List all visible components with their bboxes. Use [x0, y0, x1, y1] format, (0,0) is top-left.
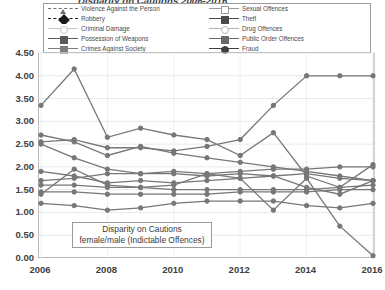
data-point — [238, 137, 242, 141]
data-point — [105, 181, 109, 185]
data-point — [238, 176, 242, 180]
data-point — [338, 224, 342, 228]
y-tick-1.50: 1.50 — [0, 184, 34, 195]
data-point — [338, 74, 342, 78]
legend-swatch-diamond-icon — [48, 15, 78, 23]
legend-item-fraud[interactable]: Fraud — [209, 44, 366, 54]
data-point — [205, 174, 209, 178]
data-point — [304, 203, 308, 207]
data-point — [205, 187, 209, 191]
x-tick-2012: 2012 — [219, 264, 259, 275]
y-tick-3.50: 3.50 — [0, 93, 34, 104]
legend-item-drug-offences[interactable]: Drug Offences — [209, 24, 366, 34]
data-point — [105, 167, 109, 171]
data-point — [338, 176, 342, 180]
y-tick-0.50: 0.50 — [0, 229, 34, 240]
data-point — [205, 144, 209, 148]
legend-item-robbery[interactable]: Robbery — [48, 14, 205, 24]
data-point — [304, 176, 308, 180]
y-tick-0.00: 0.00 — [0, 252, 34, 263]
data-point — [271, 174, 275, 178]
data-point — [271, 208, 275, 212]
data-point — [105, 185, 109, 189]
data-point — [238, 190, 242, 194]
y-tick-2.50: 2.50 — [0, 138, 34, 149]
legend-item-crimes-against-society[interactable]: Crimes Against Society — [48, 44, 205, 54]
legend-label: Sexual Offences — [242, 4, 288, 14]
data-point — [105, 192, 109, 196]
legend-item-theft[interactable]: Theft — [209, 14, 366, 24]
data-point — [371, 254, 375, 258]
y-tick-4.00: 4.00 — [0, 70, 34, 81]
legend-swatch-circle-open-icon — [48, 25, 78, 33]
data-point — [271, 167, 275, 171]
data-point — [304, 190, 308, 194]
data-point — [338, 165, 342, 169]
data-point — [172, 187, 176, 191]
x-tick-2006: 2006 — [20, 264, 60, 275]
data-point — [39, 178, 43, 182]
data-point — [338, 192, 342, 196]
data-point — [238, 199, 242, 203]
data-point — [138, 144, 142, 148]
data-point — [39, 133, 43, 137]
legend-label: Fraud — [242, 44, 258, 54]
chart-annotation: Disparity on Cautions female/male (Indic… — [72, 222, 212, 248]
legend-swatch-square-icon — [48, 35, 78, 43]
data-point — [72, 156, 76, 160]
data-point — [371, 187, 375, 191]
legend-label: Drug Offences — [242, 24, 282, 34]
legend-swatch-circle-open-icon — [209, 25, 239, 33]
data-point — [371, 165, 375, 169]
chart-container: Disparity on Cautions 2006-2016 Violence… — [0, 0, 385, 290]
data-point — [172, 201, 176, 205]
data-point — [138, 126, 142, 130]
data-point — [338, 206, 342, 210]
data-point — [271, 199, 275, 203]
series-line-sexual-offences — [41, 69, 373, 187]
data-point — [371, 178, 375, 182]
legend-item-sexual-offences[interactable]: Sexual Offences — [209, 4, 366, 14]
data-point — [138, 206, 142, 210]
data-point — [205, 137, 209, 141]
data-point — [72, 190, 76, 194]
data-point — [172, 172, 176, 176]
legend-swatch-square-open-icon — [209, 5, 239, 13]
x-tick-2010: 2010 — [153, 264, 193, 275]
legend-item-criminal-damage[interactable]: Criminal Damage — [48, 24, 205, 34]
legend-swatch-square-icon — [48, 45, 78, 53]
data-point — [72, 67, 76, 71]
data-point — [172, 133, 176, 137]
data-point — [138, 192, 142, 196]
y-tick-2.00: 2.00 — [0, 161, 34, 172]
legend-label: Robbery — [81, 14, 105, 24]
data-point — [39, 183, 43, 187]
data-point — [205, 199, 209, 203]
data-point — [205, 178, 209, 182]
data-point — [39, 142, 43, 146]
data-point — [105, 153, 109, 157]
y-tick-1.00: 1.00 — [0, 206, 34, 217]
data-point — [205, 192, 209, 196]
data-point — [271, 131, 275, 135]
legend-item-violence-against-the-person[interactable]: Violence Against the Person — [48, 4, 205, 14]
legend-swatch-square-icon — [209, 35, 239, 43]
data-point — [39, 169, 43, 173]
data-point — [304, 167, 308, 171]
data-point — [72, 140, 76, 144]
x-tick-2008: 2008 — [86, 264, 126, 275]
legend-item-possession-of-weapons[interactable]: Possession of Weapons — [48, 34, 205, 44]
annotation-line-2: female/male (Indictable Offences) — [75, 235, 209, 246]
data-point — [238, 172, 242, 176]
data-point — [72, 174, 76, 178]
data-point — [371, 201, 375, 205]
data-point — [39, 201, 43, 205]
legend-label: Criminal Damage — [81, 24, 130, 34]
data-point — [371, 183, 375, 187]
y-tick-3.00: 3.00 — [0, 115, 34, 126]
data-point — [238, 153, 242, 157]
legend-label: Public Order Offences — [242, 34, 304, 44]
data-point — [39, 103, 43, 107]
data-point — [238, 160, 242, 164]
legend-item-public-order-offences[interactable]: Public Order Offences — [209, 34, 366, 44]
